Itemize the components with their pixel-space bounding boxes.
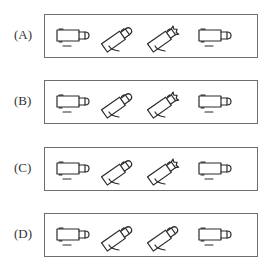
- option-figure-box: [44, 14, 258, 58]
- option-figure-box: [44, 80, 258, 124]
- camera-tilted-icon: [95, 81, 145, 123]
- option-figure-box: [44, 213, 258, 257]
- option-label: (C): [14, 160, 31, 176]
- option-label: (A): [14, 27, 32, 43]
- option-d[interactable]: (D): [0, 213, 280, 257]
- camera-horizontal-icon: [191, 81, 241, 123]
- option-b[interactable]: (B): [0, 80, 280, 124]
- camera-horizontal-icon: [49, 81, 99, 123]
- option-figure-box: [44, 147, 258, 191]
- camera-horizontal-icon: [49, 148, 99, 190]
- camera-horizontal-icon: [191, 15, 241, 57]
- option-c[interactable]: (C): [0, 147, 280, 191]
- camera-horizontal-icon: [49, 15, 99, 57]
- camera-horizontal-icon: [49, 214, 99, 256]
- camera-tilted-icon: [95, 15, 145, 57]
- camera-horizontal-icon: [191, 148, 241, 190]
- camera-horizontal-icon: [191, 214, 241, 256]
- camera-tilted-icon: [95, 214, 145, 256]
- camera-tilted-icon: [141, 15, 191, 57]
- camera-tilted-icon: [141, 148, 191, 190]
- option-a[interactable]: (A): [0, 14, 280, 58]
- option-label: (B): [14, 93, 31, 109]
- camera-tilted-icon: [95, 148, 145, 190]
- camera-tilted-icon: [141, 214, 191, 256]
- camera-tilted-icon: [141, 81, 191, 123]
- option-label: (D): [14, 226, 32, 242]
